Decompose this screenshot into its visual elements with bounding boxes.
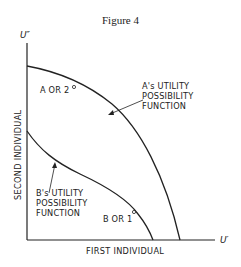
y-axis-symbol: U″ bbox=[20, 30, 31, 40]
x-axis-symbol: U′ bbox=[220, 235, 229, 245]
point-b-label: B OR 1 bbox=[103, 214, 132, 224]
point-a-or-2 bbox=[72, 85, 75, 88]
curve-b-label-1: B's UTILITY bbox=[36, 188, 84, 198]
curve-a-label-1: A's UTILITY bbox=[142, 81, 190, 91]
y-axis-label: SECOND INDIVIDUAL bbox=[13, 109, 23, 200]
curve-b-label-3: FUNCTION bbox=[36, 208, 80, 218]
curve-b-arrowhead bbox=[52, 162, 57, 168]
curve-b bbox=[27, 131, 153, 240]
curve-a-label-3: FUNCTION bbox=[142, 101, 186, 111]
x-axis-label: FIRST INDIVIDUAL bbox=[86, 246, 164, 256]
point-a-label: A OR 2 bbox=[40, 85, 69, 95]
curve-b-label-2: POSSIBILITY bbox=[36, 198, 88, 208]
utility-possibility-diagram: U″ U′ SECOND INDIVIDUAL FIRST INDIVIDUAL… bbox=[0, 0, 241, 267]
curve-a-arrowhead bbox=[108, 110, 114, 115]
point-b-or-1 bbox=[132, 210, 135, 213]
curve-a-label-2: POSSIBILITY bbox=[142, 91, 194, 101]
